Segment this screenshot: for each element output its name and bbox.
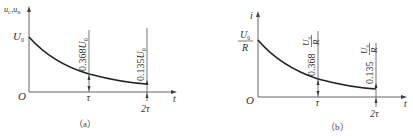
tau-arrow-up-icon [317, 80, 320, 85]
tick-tau-a: τ [87, 92, 91, 103]
y-axis-arrow-icon [27, 6, 31, 12]
tick-tau-b: τ [316, 97, 320, 108]
annotation-tau-a: 0.368U0 [77, 38, 89, 71]
tick-two-tau-b: 2τ [370, 108, 379, 119]
tau-arrow-up-icon [88, 75, 91, 80]
svg-text:0.135: 0.135 [364, 62, 375, 85]
tau-arrow-down-icon [88, 86, 91, 91]
y-axis-arrow-icon [256, 11, 260, 17]
two-tau-arrow-up-icon [375, 98, 378, 103]
svg-text:R: R [241, 42, 248, 53]
origin-label-a: O [18, 90, 26, 102]
caption-a: （a） [74, 119, 96, 129]
tau-arrow-down-icon [317, 91, 320, 96]
rc-decay-diagram: uC,uR U0 O 0.368U0 0.135U0 τ 2τ t （a） [0, 0, 413, 137]
decay-curve-a [29, 37, 147, 84]
svg-text:0.368: 0.368 [306, 54, 317, 77]
annotation-two-tau-a: 0.135U0 [135, 48, 147, 81]
two-tau-arrow-up-icon [146, 93, 149, 98]
svg-text:U0: U0 [301, 37, 312, 47]
svg-text:U0: U0 [240, 29, 250, 41]
x-axis-label-a: t [173, 93, 176, 104]
tick-two-tau-a: 2τ [141, 103, 150, 114]
y-axis-label-a: uC,uR [4, 5, 21, 15]
svg-text:U0: U0 [359, 45, 370, 55]
origin-label-b: O [246, 94, 254, 106]
initial-value-label-a: U0 [13, 30, 24, 43]
svg-text:R: R [369, 47, 379, 54]
svg-text:R: R [311, 39, 321, 46]
x-axis-label-b: t [404, 98, 407, 109]
initial-value-label-b: U0 R [238, 29, 253, 53]
panel-a: uC,uR U0 O 0.368U0 0.135U0 τ 2τ t （a） [4, 5, 177, 129]
caption-b: （b） [326, 122, 349, 132]
y-axis-label-b: i [250, 10, 253, 21]
decay-curve-b [258, 40, 376, 89]
panel-b: i U0 R O 0.368 U0 R 0.135 [238, 10, 407, 132]
